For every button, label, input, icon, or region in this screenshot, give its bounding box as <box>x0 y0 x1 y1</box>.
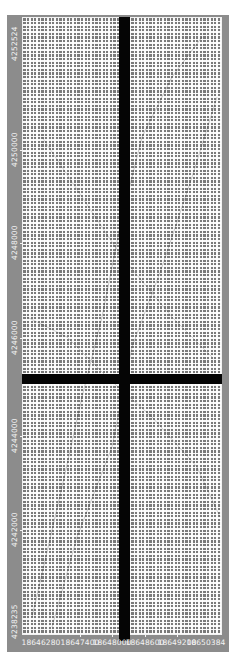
y-axis-label-bottom: 4238235 <box>8 598 22 646</box>
x-axis-label-right: 18650384 <box>187 638 226 648</box>
crosshair-vertical-bar[interactable] <box>119 17 130 641</box>
y-axis-label-top: 4252524 <box>8 20 22 68</box>
x-axis-tick <box>177 634 178 637</box>
y-axis-tick <box>20 338 23 339</box>
x-axis-label-left: 18646280 <box>22 638 61 648</box>
y-axis-tick <box>20 436 23 437</box>
x-axis-tick <box>80 634 81 637</box>
crosshair-horizontal-bar[interactable] <box>22 374 222 384</box>
y-axis-tick <box>20 243 23 244</box>
x-axis-tick <box>112 634 113 637</box>
y-axis-tick <box>20 150 23 151</box>
y-axis-tick <box>20 530 23 531</box>
x-axis-tick <box>145 634 146 637</box>
